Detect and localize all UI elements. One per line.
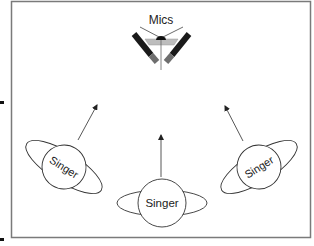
mic-right-tip [166,55,172,62]
mics-group: Mics [134,13,189,70]
singer-center: Singer [117,179,207,227]
mic-pointer-right [161,27,183,38]
edge-mark-bottom [0,238,4,241]
singer-right: Singer [210,125,308,209]
singers-mic-diagram: Mics Singer Singer Singer [0,0,314,246]
singer-center-label: Singer [145,197,178,209]
arrow-right-singer [225,106,243,141]
arrow-left-singer [78,105,97,140]
mic-pointer-left [140,27,161,38]
singer-left: Singer [15,125,113,209]
mic-left-tip [151,55,157,62]
mics-label: Mics [149,13,174,27]
edge-mark-top [0,101,4,104]
